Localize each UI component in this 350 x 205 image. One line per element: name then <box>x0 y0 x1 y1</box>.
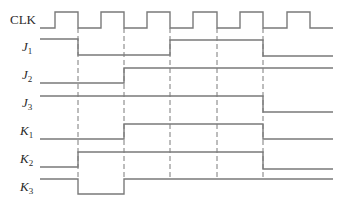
waveform-k3 <box>40 179 333 194</box>
signal-subscript: 2 <box>29 158 34 168</box>
signal-waveforms <box>40 12 333 194</box>
signal-label-j3: J3 <box>22 96 32 114</box>
signal-subscript: 1 <box>28 46 33 56</box>
signal-letter: K <box>20 123 29 138</box>
signal-label-k2: K2 <box>20 152 33 170</box>
signal-letter: CLK <box>10 12 36 27</box>
signal-label-k1: K1 <box>20 124 33 142</box>
waveform-j2 <box>40 68 333 83</box>
waveform-j3 <box>40 96 333 112</box>
signal-label-clk: CLK <box>10 13 36 27</box>
signal-letter: K <box>20 179 29 194</box>
signal-subscript: 3 <box>29 186 34 196</box>
waveform-clk <box>40 12 333 28</box>
waveform-k2 <box>40 152 333 169</box>
signal-label-k3: K3 <box>20 180 33 198</box>
signal-subscript: 2 <box>28 74 33 84</box>
signal-subscript: 1 <box>29 130 34 140</box>
signal-letter: K <box>20 151 29 166</box>
signal-label-j1: J1 <box>22 40 32 58</box>
waveform-j1 <box>40 39 333 56</box>
timing-diagram <box>0 0 350 205</box>
waveform-k1 <box>40 124 333 139</box>
signal-label-j2: J2 <box>22 68 32 86</box>
signal-subscript: 3 <box>28 102 33 112</box>
